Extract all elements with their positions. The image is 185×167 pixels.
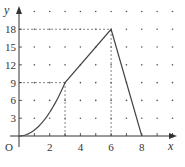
grid-dot [49, 46, 51, 48]
grid-dot [34, 82, 36, 84]
grid-dot [80, 11, 82, 13]
y-tick-label: 15 [5, 41, 17, 53]
grid-dot [141, 117, 143, 119]
y-tick-label: 12 [5, 59, 16, 71]
grid-dot [172, 46, 174, 48]
grid-dot [156, 28, 158, 30]
grid-dot [95, 64, 97, 66]
axes [10, 6, 177, 147]
grid-dot [49, 117, 51, 119]
x-axis-label: x [167, 139, 174, 153]
y-tick-label: 18 [5, 23, 17, 35]
grid-dot [141, 46, 143, 48]
grid-dot [126, 117, 128, 119]
grid-dot [156, 46, 158, 48]
grid-dot [141, 64, 143, 66]
y-tick-label: 3 [11, 112, 17, 124]
x-tick-label: 6 [108, 141, 114, 153]
grid-dot [141, 100, 143, 102]
grid-dot [172, 82, 174, 84]
grid-dot [141, 11, 143, 13]
grid-dot [64, 11, 66, 13]
x-tick-label: 8 [139, 141, 145, 153]
grid-dot [80, 46, 82, 48]
grid-dot [172, 117, 174, 119]
grid-dot [34, 64, 36, 66]
grid-dot [80, 82, 82, 84]
grid-dot [126, 28, 128, 30]
grid-dot [126, 64, 128, 66]
grid-dot [156, 82, 158, 84]
grid-dot [141, 82, 143, 84]
grid-dot [172, 64, 174, 66]
grid-dot [34, 11, 36, 13]
grid-dot [49, 28, 51, 30]
grid-dot [34, 46, 36, 48]
grid-dot [49, 11, 51, 13]
grid-dot [110, 11, 112, 13]
grid-dot [49, 64, 51, 66]
function-graph: 2468 369121518 O x y [0, 0, 185, 167]
grid-dot [126, 100, 128, 102]
grid-dot [172, 28, 174, 30]
grid-dot [156, 117, 158, 119]
grid-dot [64, 46, 66, 48]
origin-label: O [5, 141, 13, 153]
y-tick-label: 6 [11, 94, 17, 106]
grid-dot [172, 100, 174, 102]
y-tick-label: 9 [11, 77, 17, 89]
grid-dot [126, 46, 128, 48]
grid-dot [156, 100, 158, 102]
grid-dot [34, 117, 36, 119]
grid-dot [156, 64, 158, 66]
grid-dot [49, 100, 51, 102]
grid-dot [172, 11, 174, 13]
grid-dot [110, 64, 112, 66]
grid-dot [95, 100, 97, 102]
x-tick-label: 2 [47, 141, 53, 153]
y-axis-arrow-icon [16, 6, 22, 14]
grid-dot [156, 11, 158, 13]
grid-dot [34, 28, 36, 30]
grid-dot [126, 11, 128, 13]
grid-dot [141, 28, 143, 30]
grid-dot [80, 117, 82, 119]
grid-dot [95, 117, 97, 119]
x-tick-label: 4 [78, 141, 84, 153]
grid-dot [34, 100, 36, 102]
y-axis-label: y [3, 3, 10, 17]
dot-grid [34, 11, 174, 119]
grid-dot [80, 100, 82, 102]
grid-dot [95, 11, 97, 13]
grid-dot [95, 82, 97, 84]
grid-dot [49, 82, 51, 84]
grid-dot [64, 64, 66, 66]
